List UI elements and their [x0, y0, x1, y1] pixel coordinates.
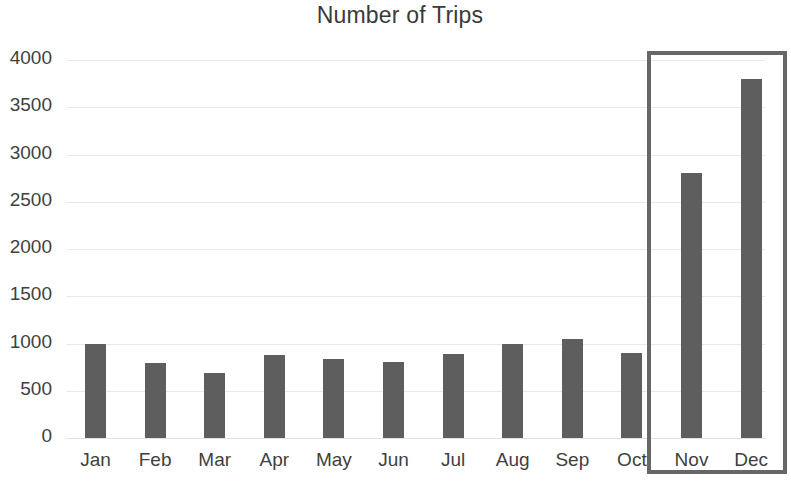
bar-feb [145, 363, 166, 438]
gridline-1000 [66, 344, 765, 345]
y-axis-tick-label: 2500 [0, 189, 52, 211]
gridline-2500 [66, 202, 765, 203]
chart-title: Number of Trips [0, 2, 791, 29]
bar-jan [85, 344, 106, 439]
x-axis-tick-label-sep: Sep [542, 449, 602, 471]
x-axis-tick-label-apr: Apr [244, 449, 304, 471]
gridline-3500 [66, 107, 765, 108]
bar-jun [383, 362, 404, 438]
y-axis-tick-label: 1500 [0, 283, 52, 305]
y-axis-tick-label: 4000 [0, 47, 52, 69]
bar-aug [502, 344, 523, 439]
bar-dec [741, 79, 762, 438]
gridline-0 [66, 438, 765, 439]
gridline-3000 [66, 155, 765, 156]
y-axis-tick-label: 0 [0, 425, 52, 447]
x-axis-tick-label-dec: Dec [721, 449, 781, 471]
x-axis-tick-label-oct: Oct [602, 449, 662, 471]
y-axis-tick-label: 1000 [0, 331, 52, 353]
x-axis-tick-label-aug: Aug [483, 449, 543, 471]
x-axis-tick-label-mar: Mar [185, 449, 245, 471]
bar-oct [621, 353, 642, 438]
gridline-4000 [66, 60, 765, 61]
x-axis-tick-label-jun: Jun [364, 449, 424, 471]
y-axis-tick-label: 2000 [0, 236, 52, 258]
gridline-2000 [66, 249, 765, 250]
x-axis-tick-label-nov: Nov [662, 449, 722, 471]
bar-apr [264, 355, 285, 438]
bar-may [323, 359, 344, 438]
bar-jul [443, 354, 464, 438]
y-axis-tick-label: 3500 [0, 94, 52, 116]
y-axis-tick-label: 3000 [0, 142, 52, 164]
x-axis-tick-label-may: May [304, 449, 364, 471]
bar-sep [562, 339, 583, 438]
x-axis-tick-label-jan: Jan [66, 449, 126, 471]
x-axis-tick-label-feb: Feb [125, 449, 185, 471]
bar-mar [204, 373, 225, 438]
plot-area [66, 60, 765, 438]
gridline-1500 [66, 296, 765, 297]
bar-nov [681, 173, 702, 438]
y-axis-tick-label: 500 [0, 378, 52, 400]
gridline-500 [66, 391, 765, 392]
x-axis-tick-label-jul: Jul [423, 449, 483, 471]
